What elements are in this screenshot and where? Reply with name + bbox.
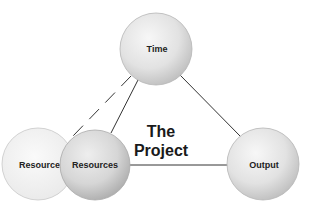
edge-time-resources-ghost-dashed — [73, 76, 131, 136]
edge-time-output — [180, 75, 241, 137]
node-time-label: Time — [147, 44, 168, 54]
node-resources-label: Resources — [72, 160, 118, 170]
project-triangle-diagram: Resources Time Resources Output The Proj… — [0, 0, 309, 209]
node-output: Output — [227, 128, 299, 200]
node-output-label: Output — [249, 160, 279, 170]
edge-time-resources — [111, 78, 139, 133]
node-resources: Resources — [60, 130, 130, 200]
node-resources-ghost-label: Resources — [19, 160, 65, 170]
node-time: Time — [120, 13, 192, 85]
center-label-line1: The — [147, 123, 176, 140]
center-label-line2: Project — [134, 142, 189, 159]
